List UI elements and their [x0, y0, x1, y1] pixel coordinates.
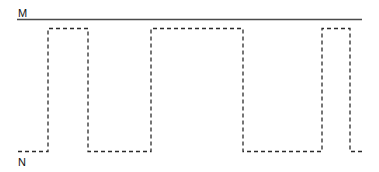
- timing-diagram-figure: M N: [0, 0, 379, 172]
- timing-diagram-canvas: M N: [0, 0, 379, 172]
- lower-level-label: N: [18, 156, 26, 168]
- square-wave-path: [18, 29, 365, 152]
- upper-level-label: M: [18, 7, 27, 19]
